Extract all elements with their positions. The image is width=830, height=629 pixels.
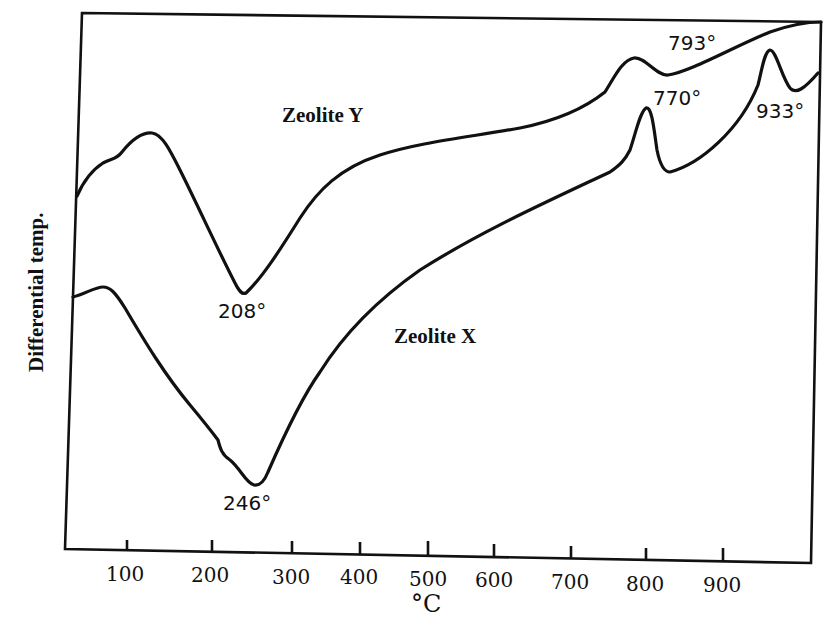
tick-label-700: 700 (551, 570, 589, 594)
tick-label-200: 200 (191, 563, 229, 587)
y-axis-title: Differential temp. (24, 213, 48, 372)
annotation-933: 933° (756, 99, 804, 123)
dta-chart: 100 200 300 400 500 600 700 800 900 °C D… (0, 0, 830, 629)
annotation-246: 246° (223, 491, 271, 515)
annotation-208: 208° (218, 299, 266, 323)
plot-frame (65, 13, 821, 563)
series-label-zeolite-y: Zeolite Y (282, 103, 363, 127)
annotation-793: 793° (668, 31, 716, 55)
tick-label-400: 400 (340, 565, 378, 589)
tick-label-300: 300 (272, 565, 310, 589)
tick-label-900: 900 (703, 573, 741, 597)
series-zeolite-x (73, 50, 818, 485)
tick-label-600: 600 (475, 568, 513, 592)
tick-label-500: 500 (409, 567, 447, 591)
tick-label-100: 100 (106, 562, 144, 586)
series-label-zeolite-x: Zeolite X (394, 324, 476, 348)
x-axis-unit: °C (411, 590, 441, 618)
annotation-770: 770° (653, 86, 701, 110)
tick-label-800: 800 (626, 572, 664, 596)
